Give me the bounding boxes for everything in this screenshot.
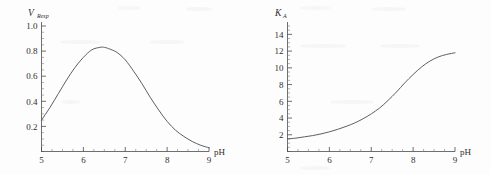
y-tick-label: 0.4 [26, 97, 38, 107]
association-curve [288, 53, 456, 139]
x-tick-label: 8 [411, 155, 416, 165]
x-axis-group: 56789 [39, 147, 212, 165]
y-tick-label: 10 [275, 63, 285, 73]
x-tick-label: 5 [39, 155, 44, 165]
chart-respiration-rate: 0.20.40.60.81.0 56789 V Resp pH [0, 0, 245, 175]
x-tick-label: 5 [285, 155, 290, 165]
y-axis-label-variable: K [274, 8, 282, 18]
y-tick-label: 1.0 [26, 21, 38, 31]
y-axis-group: 0.20.40.60.81.0 [26, 21, 46, 152]
x-tick-labels: 56789 [285, 155, 458, 165]
x-major-ticks [288, 147, 456, 152]
x-tick-label: 9 [453, 155, 458, 165]
x-tick-label: 9 [207, 155, 212, 165]
y-tick-label: 12 [275, 46, 284, 56]
x-axis-label: pH [460, 147, 472, 157]
respiration-curve [42, 47, 210, 148]
y-tick-label: 4 [279, 113, 284, 123]
y-major-ticks [288, 34, 293, 134]
y-major-ticks [42, 26, 47, 126]
y-tick-label: 0.8 [26, 46, 38, 56]
y-axis-label-subscript: Resp [36, 13, 49, 19]
x-tick-label: 6 [81, 155, 86, 165]
x-tick-labels: 56789 [39, 155, 212, 165]
y-axis-label-variable: V [28, 8, 35, 18]
y-tick-label: 0.2 [26, 122, 37, 132]
chart-association-constant: 2468101214 56789 K A pH [246, 0, 491, 175]
x-tick-label: 7 [369, 155, 374, 165]
y-tick-label: 0.6 [26, 71, 38, 81]
x-axis-label: pH [214, 147, 226, 157]
y-tick-label: 2 [279, 130, 284, 140]
x-tick-label: 8 [165, 155, 170, 165]
x-major-ticks [42, 147, 210, 152]
figure-page: 0.20.40.60.81.0 56789 V Resp pH 24681012… [0, 0, 491, 175]
y-tick-label: 14 [275, 30, 285, 40]
x-axis-group: 56789 [285, 147, 458, 165]
association-plot-svg: 2468101214 56789 K A pH [246, 0, 491, 175]
y-tick-labels: 0.20.40.60.81.0 [26, 21, 38, 131]
y-axis-group: 2468101214 [275, 22, 293, 152]
y-tick-label: 8 [279, 80, 284, 90]
x-tick-label: 7 [123, 155, 128, 165]
y-axis-label-subscript: A [282, 13, 287, 19]
y-tick-label: 6 [279, 97, 284, 107]
y-tick-labels: 2468101214 [275, 30, 285, 140]
x-tick-label: 6 [327, 155, 332, 165]
respiration-plot-svg: 0.20.40.60.81.0 56789 V Resp pH [0, 0, 245, 175]
